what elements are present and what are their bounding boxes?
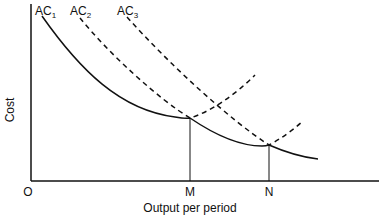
m-label: M [185,185,195,199]
origin-label: O [23,185,32,199]
ac2-curve [80,18,255,118]
ac1-curve [42,16,318,159]
cost-curves-diagram: AC1 AC2 AC3 Cost O M N Output per period [0,0,379,218]
ac2-label: AC2 [70,4,92,20]
y-axis-label: Cost [3,97,17,122]
ac1-label: AC1 [35,4,57,20]
ac3-curve [127,17,303,145]
n-label: N [265,185,274,199]
x-axis-label: Output per period [143,201,236,215]
ac3-label: AC3 [117,4,139,20]
